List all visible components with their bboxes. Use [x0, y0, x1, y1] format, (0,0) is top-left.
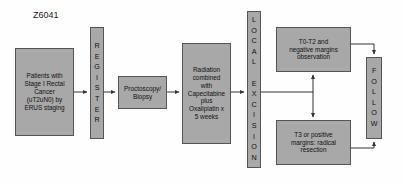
- follow-bar-label: FOLLOW: [370, 66, 377, 130]
- radiation-chemo-box-label: Radiation combined with Capecitabine plu…: [187, 66, 226, 121]
- register-bar: REGISTER: [90, 27, 104, 139]
- follow-bar: FOLLOW: [366, 57, 382, 139]
- proctoscopy-biopsy-box-label: Proctoscopy/ Biopsy: [123, 85, 162, 101]
- flowchart-canvas: Z6041 Patients with Stage I Rectal Cance…: [0, 0, 403, 185]
- local-excision-bar: LOCAL EXCISION: [247, 11, 261, 168]
- connector-radical-resection-to-follow: [351, 142, 374, 148]
- proctoscopy-biopsy-box: Proctoscopy/ Biopsy: [118, 76, 167, 109]
- t3-positive-margins-box: T3 or positive margins: radical resectio…: [276, 120, 351, 165]
- patients-box-label: Patients with Stage I Rectal Cancer (uT2…: [23, 72, 65, 111]
- local-excision-bar-label: LOCAL EXCISION: [250, 15, 257, 163]
- register-bar-label: REGISTER: [93, 41, 100, 126]
- connector-observation-to-follow: [351, 44, 374, 54]
- t3-positive-margins-box-label: T3 or positive margins: radical resectio…: [290, 131, 337, 154]
- diagram-title: Z6041: [33, 10, 59, 20]
- radiation-chemo-box: Radiation combined with Capecitabine plu…: [182, 43, 231, 144]
- t0-t2-negative-margins-box-label: T0-T2 and negative margins observation: [288, 38, 339, 61]
- t0-t2-negative-margins-box: T0-T2 and negative margins observation: [276, 27, 351, 72]
- patients-box: Patients with Stage I Rectal Cancer (uT2…: [15, 48, 74, 136]
